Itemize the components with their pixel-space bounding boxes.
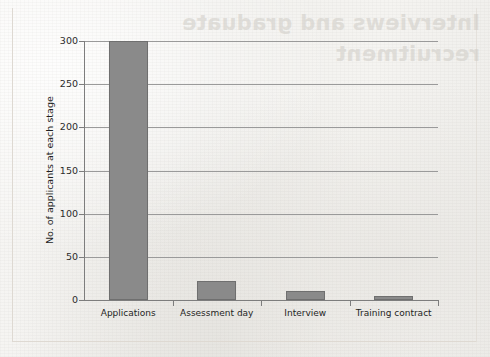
x-axis-category-label: Applications [84, 308, 173, 318]
x-axis-tick [438, 301, 439, 306]
y-axis-line [84, 41, 85, 300]
x-axis-tick [173, 301, 174, 306]
y-axis-tick-label: 50 [38, 251, 78, 262]
bar [109, 41, 148, 300]
y-axis-tick [79, 300, 84, 301]
y-axis-tick-label: 200 [38, 121, 78, 132]
x-axis-category-label: Training contract [350, 308, 439, 318]
y-axis-tick [79, 214, 84, 215]
bar [286, 291, 325, 300]
x-axis-category-label: Assessment day [173, 308, 262, 318]
x-axis-tick [261, 301, 262, 306]
y-axis-tick-label: 300 [38, 35, 78, 46]
y-axis-tick [79, 84, 84, 85]
chart-page: Interviews and graduate recruitment No. … [0, 0, 490, 357]
y-axis-tick [79, 171, 84, 172]
bar-chart: No. of applicants at each stage 05010015… [0, 0, 490, 357]
y-axis-tick [79, 41, 84, 42]
bar [197, 281, 236, 300]
x-axis-tick [350, 301, 351, 306]
plot-area [84, 41, 438, 300]
y-axis-tick-label: 250 [38, 78, 78, 89]
y-axis-tick [79, 257, 84, 258]
x-axis-category-label: Interview [261, 308, 350, 318]
y-axis-tick [79, 127, 84, 128]
y-axis-tick-label: 0 [38, 294, 78, 305]
y-axis-tick-label: 150 [38, 165, 78, 176]
y-axis-tick-label: 100 [38, 208, 78, 219]
